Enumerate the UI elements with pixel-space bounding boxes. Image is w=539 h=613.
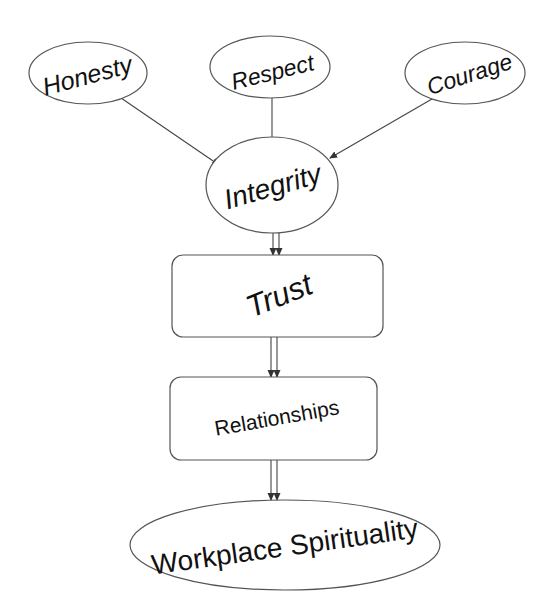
edge-relationships-workplace-spirituality: [271, 460, 277, 500]
node-trust: Trust: [172, 255, 383, 337]
node-integrity: Integrity: [206, 137, 338, 233]
node-courage: Courage: [405, 42, 525, 104]
edge-honesty-integrity: [121, 98, 219, 165]
diagram-canvas: Honesty Respect Courage Integrity Trust …: [0, 0, 539, 613]
node-workplace-spirituality: Workplace Spirituality: [130, 500, 440, 590]
node-respect: Respect: [210, 36, 330, 98]
edge-courage-integrity: [330, 99, 432, 158]
edge-trust-relationships: [271, 337, 277, 377]
node-relationships: Relationships: [170, 377, 377, 460]
node-honesty: Honesty: [29, 42, 147, 104]
